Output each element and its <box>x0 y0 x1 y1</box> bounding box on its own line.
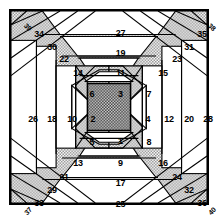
piece-20-band <box>162 46 182 167</box>
piece-19 <box>62 36 156 56</box>
piece-number-33: 33 <box>34 199 44 208</box>
piece-number-28: 28 <box>203 114 213 123</box>
piece-number-29: 29 <box>47 186 57 195</box>
piece-number-6: 6 <box>90 90 95 99</box>
piece-number-13: 13 <box>73 159 83 168</box>
piece-number-14: 14 <box>73 69 83 78</box>
piece-number-21: 21 <box>59 173 69 182</box>
piece-number-5: 5 <box>90 138 95 147</box>
piece-18-band <box>36 46 56 167</box>
piece-28-band <box>182 40 207 173</box>
piece-number-16: 16 <box>158 159 168 168</box>
piece-number-27: 27 <box>116 29 126 38</box>
piece-number-19: 19 <box>116 49 126 58</box>
piece-number-24: 24 <box>172 173 182 182</box>
piece-number-35: 35 <box>197 30 207 39</box>
piece-number-17: 17 <box>116 179 126 188</box>
quilt-block-frame: 1 2 3 4 5 6 7 8 9 10 11 12 13 14 15 16 1… <box>9 9 209 205</box>
piece-number-7: 7 <box>147 90 152 99</box>
piece-number-2: 2 <box>91 114 96 123</box>
piece-number-1: 1 <box>118 137 123 146</box>
piece-number-22: 22 <box>59 55 69 64</box>
pineapple-quilt-block-diagram: 1 2 3 4 5 6 7 8 9 10 11 12 13 14 15 16 1… <box>0 0 219 216</box>
piece-number-25: 25 <box>116 200 126 209</box>
piece-number-38: 38 <box>207 22 217 32</box>
piece-number-32: 32 <box>184 186 194 195</box>
piece-number-40: 40 <box>207 206 217 216</box>
piece-number-37: 37 <box>23 206 33 216</box>
piece-number-8: 8 <box>147 138 152 147</box>
piece-number-26: 26 <box>28 114 38 123</box>
piece-number-12: 12 <box>164 114 174 123</box>
piece-number-11: 11 <box>116 69 125 78</box>
piece-number-31: 31 <box>184 43 194 52</box>
piece-number-20: 20 <box>184 114 194 123</box>
piece-27 <box>42 11 175 35</box>
piece-number-10: 10 <box>67 114 77 123</box>
piece-number-30: 30 <box>47 43 57 52</box>
piece-number-9: 9 <box>118 159 123 168</box>
piece-number-3: 3 <box>118 90 123 99</box>
piece-number-34: 34 <box>34 30 44 39</box>
piece-number-23: 23 <box>172 55 182 64</box>
piece-number-4: 4 <box>146 114 151 123</box>
piece-number-36: 36 <box>197 199 207 208</box>
piece-number-15: 15 <box>158 69 168 78</box>
piece-26-band <box>11 40 36 173</box>
piece-25 <box>42 179 175 203</box>
piece-number-18: 18 <box>47 114 57 123</box>
